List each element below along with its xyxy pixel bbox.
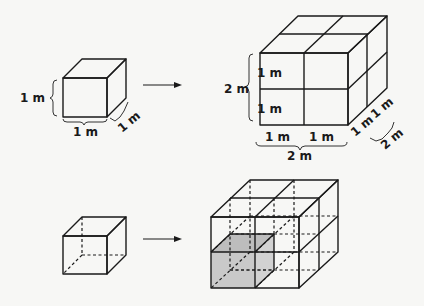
large-cube-total-height-label: 2 m	[224, 82, 249, 96]
large-cube-height-part-2: 1 m	[257, 102, 282, 116]
right-arrow-icon	[143, 82, 182, 88]
large-cube-width-part-2: 1 m	[309, 130, 334, 144]
small-cube-width-label: 1 m	[73, 125, 98, 139]
large-cube-depth-part-2: 1 m	[368, 94, 396, 121]
large-cube-total-depth-label: 2 m	[378, 125, 406, 152]
large-cube-total-width-label: 2 m	[287, 149, 312, 163]
small-cube-depth-label: 1 m	[115, 108, 143, 135]
large-cube-wireframe	[211, 180, 338, 288]
large-cube-width-part-1: 1 m	[265, 130, 290, 144]
small-cube-shaded	[63, 59, 126, 117]
right-arrow-icon	[143, 236, 182, 242]
unit-cube-diagram: 1 m 1 m 1 m 2 m 1 m 1 m 1 m 1 m 2 m 1 m …	[0, 0, 424, 306]
small-cube-height-label: 1 m	[20, 91, 45, 105]
large-cube-height-part-1: 1 m	[257, 66, 282, 80]
height-brace	[50, 80, 57, 116]
small-cube-wireframe	[63, 217, 126, 274]
